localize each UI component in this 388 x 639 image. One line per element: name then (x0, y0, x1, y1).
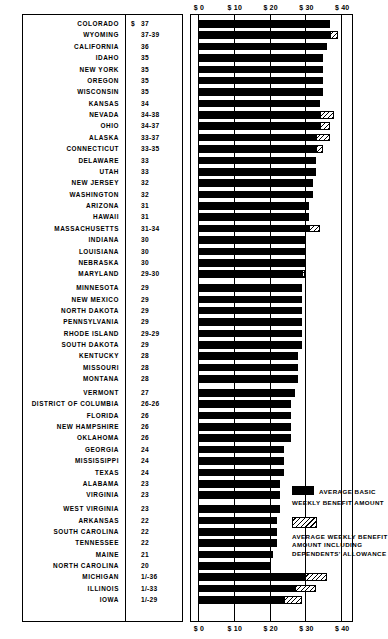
bar-basic-connecticut (198, 145, 316, 153)
bar-dependents-massachusetts (309, 225, 320, 233)
state-label-iowa: IOWA (100, 593, 119, 607)
bar-basic-virginia (198, 491, 280, 499)
bar-dependents-maryland (302, 270, 306, 278)
axis-tick-label-0: $ 0 (194, 624, 204, 633)
state-name-row: MARYLAND (22, 267, 125, 281)
bar-basic-indiana (198, 236, 305, 244)
legend-basic-line-1: AVERAGE BASIC (319, 488, 376, 497)
axis-tick-label-0: $ 0 (194, 3, 204, 12)
bar-basic-arkansas (198, 517, 277, 525)
benefit-value-row: 28 (125, 372, 183, 386)
state-name-row: MONTANA (22, 372, 125, 386)
bar-basic-montana (198, 375, 298, 383)
bar-basic-illinois (198, 585, 295, 593)
benefit-value-row: 29-30 (125, 267, 183, 281)
bar-basic-iowa (198, 596, 284, 604)
bar-basic-south-dakota (198, 341, 302, 349)
bar-row (190, 593, 353, 607)
axis-tick-label-30: $ 30 (299, 3, 313, 12)
bar-basic-idaho (198, 54, 323, 62)
benefit-value-row: 1/-29 (125, 593, 183, 607)
state-label-virginia: VIRGINIA (86, 488, 119, 502)
bar-dependents-connecticut (316, 145, 323, 153)
bottom-axis-labels: $ 0$ 10$ 20$ 30$ 40 (0, 624, 375, 635)
bar-basic-california (198, 43, 327, 51)
legend-entry-dependents: AVERAGE WEEKLY BENEFIT AMOUNT INCLUDING … (292, 517, 376, 559)
bar-basic-utah (198, 168, 316, 176)
bar-basic-arizona (198, 202, 309, 210)
axis-tick-label-30: $ 30 (299, 624, 313, 633)
bar-basic-maryland (198, 270, 302, 278)
bar-basic-colorado (198, 20, 330, 28)
legend-basic-line-2: WEEKLY BENEFIT AMOUNT (292, 499, 376, 508)
bar-dependents-illinois (295, 585, 316, 593)
bar-dependents-michigan (305, 573, 326, 581)
axis-tick-label-40: $ 40 (335, 624, 349, 633)
bar-basic-alabama (198, 480, 280, 488)
bar-basic-kentucky (198, 352, 298, 360)
bar-basic-louisiana (198, 248, 305, 256)
bar-basic-ohio (198, 122, 320, 130)
bar-basic-new-mexico (198, 296, 302, 304)
bar-basic-vermont (198, 389, 295, 397)
bar-basic-hawaii (198, 213, 309, 221)
bar-basic-georgia (198, 446, 284, 454)
bar-basic-new-jersey (198, 179, 313, 187)
bar-basic-mississippi (198, 457, 284, 465)
legend-solid-swatch-icon (292, 486, 314, 495)
bar-basic-oklahoma (198, 434, 291, 442)
bar-basic-north-carolina (198, 562, 270, 570)
axis-tick-label-10: $ 10 (228, 3, 242, 12)
bar-dependents-wyoming (330, 31, 337, 39)
benefit-value-montana: 28 (141, 372, 149, 386)
bar-dependents-ohio (320, 122, 331, 130)
benefit-value-row: 23 (125, 488, 183, 502)
bar-basic-massachusetts (198, 225, 309, 233)
bar-basic-florida (198, 412, 291, 420)
benefit-values-column: $3737-3936353535353434-3834-3733-3733-35… (125, 14, 183, 622)
legend-dep-line-2: AMOUNT INCLUDING (292, 541, 376, 550)
bar-dependents-iowa (284, 596, 302, 604)
state-label-montana: MONTANA (83, 372, 119, 386)
bar-basic-oregon (198, 77, 323, 85)
bar-row (190, 372, 353, 386)
bar-dependents-nevada (320, 111, 334, 119)
bar-basic-rhode-island (198, 330, 302, 338)
axis-tick-label-20: $ 20 (263, 3, 277, 12)
bar-basic-alaska (198, 134, 316, 142)
state-name-row: IOWA (22, 593, 125, 607)
legend-dep-line-3: DEPENDENTS' ALLOWANCE (292, 550, 376, 559)
bar-basic-pennsylvania (198, 318, 302, 326)
bar-dependents-alaska (316, 134, 330, 142)
bar-basic-nebraska (198, 259, 305, 267)
bar-basic-new-hampshire (198, 423, 291, 431)
top-axis-labels: $ 0$ 10$ 20$ 30$ 40 (0, 3, 375, 14)
bar-row (190, 267, 353, 281)
legend-hatch-swatch-icon (292, 517, 317, 528)
bar-basic-north-dakota (198, 307, 302, 315)
axis-tick-label-10: $ 10 (228, 624, 242, 633)
bar-basic-delaware (198, 157, 316, 165)
bar-basic-maine (198, 551, 273, 559)
bar-basic-texas (198, 469, 284, 477)
state-name-row: VIRGINIA (22, 488, 125, 502)
legend-dep-line-1: AVERAGE WEEKLY BENEFIT (292, 533, 376, 542)
bar-basic-south-carolina (198, 528, 277, 536)
bar-basic-new-york (198, 66, 323, 74)
state-names-column: COLORADOWYOMINGCALIFORNIAIDAHONEW YORKOR… (22, 14, 125, 622)
benefit-value-iowa: 1/-29 (141, 593, 158, 607)
state-label-maryland: MARYLAND (78, 267, 119, 281)
bar-basic-missouri (198, 364, 298, 372)
bar-basic-wisconsin (198, 88, 323, 96)
axis-tick-label-20: $ 20 (263, 624, 277, 633)
benefit-value-virginia: 23 (141, 488, 149, 502)
bar-basic-west-virginia (198, 505, 280, 513)
chart-legend: AVERAGE BASIC WEEKLY BENEFIT AMOUNT AVER… (292, 486, 376, 567)
bar-basic-kansas (198, 100, 320, 108)
legend-entry-basic: AVERAGE BASIC WEEKLY BENEFIT AMOUNT (292, 486, 376, 508)
bar-basic-minnesota (198, 284, 302, 292)
axis-tick-label-40: $ 40 (335, 3, 349, 12)
bar-basic-tennessee (198, 539, 277, 547)
bar-basic-michigan (198, 573, 305, 581)
